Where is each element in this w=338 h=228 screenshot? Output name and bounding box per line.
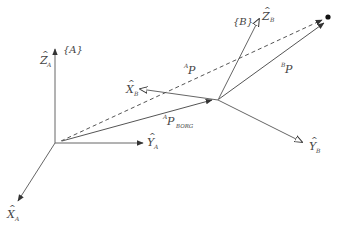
y-a-label: Y ^ A (147, 131, 159, 150)
svg-text:^: ^ (264, 5, 271, 14)
svg-text:B: B (269, 16, 275, 23)
x-a-label: X ^ A (6, 203, 20, 222)
svg-text:^: ^ (149, 131, 156, 140)
svg-text:BORG: BORG (175, 123, 194, 129)
svg-text:P: P (284, 63, 293, 76)
z-b-label: Z ^ B (261, 5, 275, 23)
svg-text:^: ^ (128, 78, 135, 87)
x-b-label: X ^ B (125, 78, 139, 97)
coordinate-frame-diagram: {A} Z ^ A Y ^ A X ^ A {B} Z ^ B X ^ (0, 0, 338, 228)
z-b-axis (218, 19, 259, 100)
svg-text:^: ^ (42, 49, 49, 58)
vector-a-p-borg-label: A P BORG (162, 113, 194, 129)
svg-text:^: ^ (311, 135, 318, 144)
vector-b-p-label: B P (280, 61, 293, 76)
svg-text:B: B (315, 147, 321, 154)
frame-a: {A} Z ^ A Y ^ A X ^ A (6, 44, 159, 222)
svg-text:P: P (166, 115, 175, 128)
svg-text:A: A (153, 143, 159, 150)
vector-a-p-borg (62, 100, 212, 141)
svg-text:A: A (14, 215, 20, 222)
svg-text:B: B (133, 90, 139, 97)
x-b-axis (140, 89, 218, 100)
svg-text:^: ^ (9, 203, 16, 212)
point-p (325, 14, 330, 19)
x-a-axis (18, 143, 55, 201)
frame-a-label: {A} (63, 44, 83, 55)
y-b-label: Y ^ B (309, 135, 321, 154)
vector-a-p-label: A P (183, 62, 196, 77)
svg-text:P: P (187, 64, 196, 77)
frame-b-label: {B} (233, 16, 253, 27)
vectors: A P B P A P BORG (61, 20, 324, 141)
svg-text:A: A (46, 61, 52, 68)
y-b-axis (218, 100, 302, 142)
z-a-label: Z ^ A (39, 49, 52, 68)
